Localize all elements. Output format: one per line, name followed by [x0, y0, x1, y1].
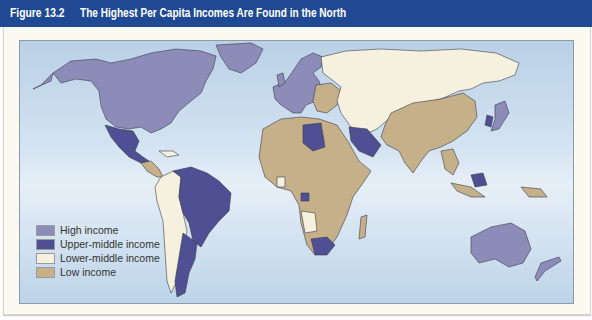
legend-label: Upper-middle income	[60, 238, 160, 250]
region-australia	[471, 223, 531, 267]
legend-swatch-high-income	[36, 225, 55, 236]
figure-title: The Highest Per Capita Incomes Are Found…	[80, 6, 346, 20]
region-new-guinea	[521, 187, 547, 197]
region-borneo	[471, 173, 487, 187]
region-central-america	[141, 161, 163, 177]
region-alaska-tail	[33, 73, 53, 89]
region-eastern-europe	[313, 83, 341, 113]
region-west-africa-lm	[277, 177, 285, 187]
region-south-korea	[485, 115, 493, 127]
legend-swatch-upper-middle-income	[36, 239, 55, 250]
legend-label: Low income	[60, 266, 116, 278]
region-madagascar	[359, 215, 367, 239]
legend-item-low-income: Low income	[36, 266, 196, 280]
figure-title-bar: Figure 13.2 The Highest Per Capita Incom…	[0, 0, 592, 27]
map-legend: High income Upper-middle income Lower-mi…	[36, 224, 196, 280]
region-japan	[491, 101, 509, 131]
region-caribbean	[159, 151, 179, 157]
legend-label: High income	[60, 224, 118, 236]
legend-label: Lower-middle income	[60, 252, 160, 264]
legend-swatch-low-income	[36, 267, 55, 278]
region-greenland	[216, 43, 263, 73]
figure-number: Figure 13.2	[10, 6, 64, 20]
region-gabon	[301, 193, 309, 201]
legend-item-high-income: High income	[36, 224, 196, 238]
region-mexico	[105, 125, 149, 163]
region-southeast-asia	[441, 149, 459, 175]
legend-swatch-lower-middle-income	[36, 253, 55, 264]
region-new-zealand	[535, 257, 561, 281]
legend-item-upper-middle-income: Upper-middle income	[36, 238, 196, 252]
region-north-america	[53, 49, 216, 133]
legend-item-lower-middle-income: Lower-middle income	[36, 252, 196, 266]
